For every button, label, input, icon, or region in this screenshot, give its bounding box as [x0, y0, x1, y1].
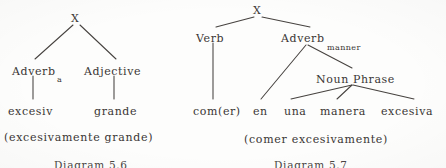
node-adverb-subscript-right: manner: [327, 44, 361, 52]
edge-root-verb: [216, 17, 254, 27]
terminal-una: una: [284, 106, 307, 117]
edge-root-adjective: [80, 25, 116, 59]
edge-root-adverb2: [262, 17, 310, 27]
terminal-excesiv: excesiv: [8, 106, 53, 117]
terminal-manera: manera: [320, 106, 366, 117]
edge-np-excesiva: [353, 85, 414, 99]
terminal-en: en: [253, 106, 268, 117]
diagram-page: X Adverb a Adjective excesiv grande X Ve…: [0, 0, 446, 168]
edge-np-una: [291, 85, 352, 99]
node-adverb-left: Adverb: [12, 66, 56, 77]
terminal-excesiva: excesiva: [381, 106, 433, 117]
gloss-left: (excesivamente grande): [4, 132, 153, 143]
figure-number-right: Diagram 5.7: [274, 160, 348, 168]
edge-adverb-en: [261, 45, 306, 99]
edge-root-adverb: [35, 25, 73, 59]
node-x-left: X: [71, 13, 79, 24]
terminal-comer: com(er): [193, 106, 241, 117]
node-verb: Verb: [196, 33, 224, 44]
figure-number-left: Diagram 5.6: [54, 160, 128, 168]
gloss-right: (comer excesivamente): [244, 134, 388, 145]
node-adjective-left: Adjective: [84, 66, 141, 77]
terminal-grande: grande: [94, 106, 137, 117]
node-adverb-subscript-left: a: [57, 76, 62, 84]
node-x-right: X: [253, 5, 261, 16]
node-adverb-right: Adverb: [281, 33, 325, 44]
node-noun-phrase: Noun Phrase: [316, 74, 395, 85]
